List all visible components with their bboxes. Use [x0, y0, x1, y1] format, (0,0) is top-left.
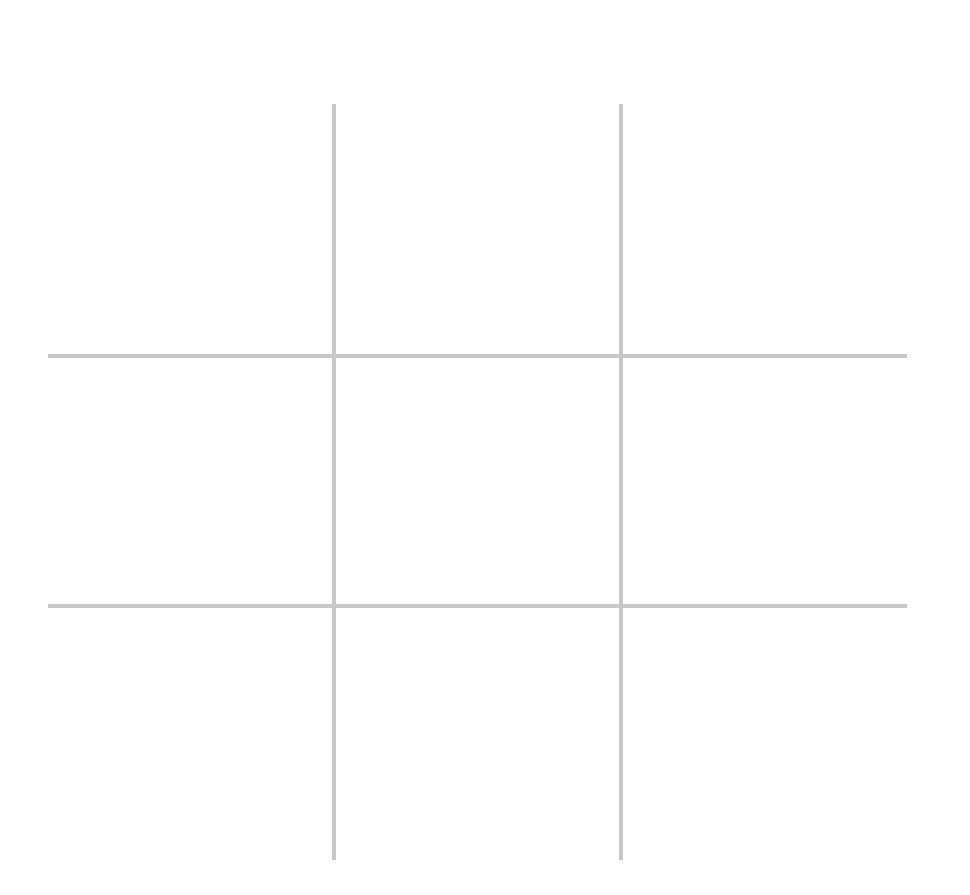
cell-0-1[interactable] [336, 104, 619, 354]
cell-1-2[interactable] [623, 358, 907, 604]
cell-1-0[interactable] [48, 358, 332, 604]
cell-2-0[interactable] [48, 608, 332, 860]
cell-0-2[interactable] [623, 104, 907, 354]
cell-1-1[interactable] [336, 358, 619, 604]
tic-tac-toe-board [48, 104, 907, 860]
cell-2-1[interactable] [336, 608, 619, 860]
cell-2-2[interactable] [623, 608, 907, 860]
cell-0-0[interactable] [48, 104, 332, 354]
